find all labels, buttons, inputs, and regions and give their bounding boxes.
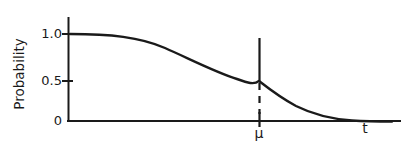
y-tick-label-0: 0 bbox=[36, 114, 62, 127]
chart-canvas bbox=[0, 0, 416, 152]
x-axis-label-mu: μ bbox=[249, 126, 269, 140]
y-axis-title: Probability bbox=[13, 38, 27, 109]
y-tick-label-0.5: 0.5 bbox=[36, 74, 62, 87]
x-axis-label-t: t bbox=[357, 121, 373, 135]
probability-survival-curve-figure: Probability 1.0 0.5 0 μ t bbox=[0, 0, 416, 152]
survival-curve-path bbox=[70, 34, 392, 122]
y-tick-label-1.0: 1.0 bbox=[36, 27, 62, 40]
